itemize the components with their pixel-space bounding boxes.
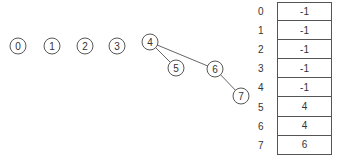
node-6: 6 xyxy=(207,61,223,77)
node-3: 3 xyxy=(109,38,125,54)
array-index: 4 xyxy=(250,82,277,93)
array-row: 3-1 xyxy=(250,59,332,78)
array-cell: -1 xyxy=(277,2,332,21)
array-row: 2-1 xyxy=(250,40,332,59)
node-1: 1 xyxy=(44,38,60,54)
node-7: 7 xyxy=(233,88,249,104)
array-cell: 4 xyxy=(277,117,332,136)
svg-text:6: 6 xyxy=(212,64,218,75)
svg-text:3: 3 xyxy=(114,41,120,52)
array-cell: -1 xyxy=(277,21,332,40)
array-row: 4-1 xyxy=(250,78,332,97)
parent-array-table: 0-1 1-1 2-1 3-1 4-1 54 64 76 xyxy=(250,2,332,155)
svg-text:4: 4 xyxy=(147,37,153,48)
array-index: 5 xyxy=(250,102,277,113)
svg-text:5: 5 xyxy=(173,63,179,74)
node-0: 0 xyxy=(10,38,26,54)
node-4: 4 xyxy=(142,34,158,50)
array-row: 64 xyxy=(250,117,332,136)
svg-text:0: 0 xyxy=(15,41,21,52)
node-5: 5 xyxy=(168,60,184,76)
array-index: 2 xyxy=(250,44,277,55)
svg-text:7: 7 xyxy=(238,91,244,102)
array-row: 54 xyxy=(250,97,332,116)
array-index: 7 xyxy=(250,140,277,151)
node-2: 2 xyxy=(77,38,93,54)
array-cell: 4 xyxy=(277,97,332,116)
array-row: 0-1 xyxy=(250,2,332,21)
array-row: 76 xyxy=(250,136,332,155)
array-index: 1 xyxy=(250,25,277,36)
svg-text:1: 1 xyxy=(49,41,55,52)
array-cell: -1 xyxy=(277,59,332,78)
array-cell: -1 xyxy=(277,40,332,59)
array-index: 3 xyxy=(250,63,277,74)
svg-text:2: 2 xyxy=(82,41,88,52)
array-cell: -1 xyxy=(277,78,332,97)
array-index: 0 xyxy=(250,6,277,17)
array-cell: 6 xyxy=(277,136,332,155)
array-row: 1-1 xyxy=(250,21,332,40)
array-index: 6 xyxy=(250,121,277,132)
